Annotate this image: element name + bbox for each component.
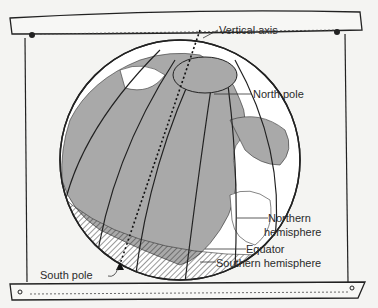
label-northern-hemisphere-2: hemisphere <box>264 226 321 238</box>
scroll-rivet-left-icon <box>29 32 35 38</box>
label-vertical-axis: Vertical axis <box>219 24 278 36</box>
label-south-pole: South pole <box>40 269 93 281</box>
scroll-rivet-right-icon <box>334 29 340 35</box>
label-equator: Equator <box>246 243 285 255</box>
scroll-top-bar <box>10 11 362 38</box>
scroll-bottom-bar <box>10 282 365 300</box>
label-north-pole: North pole <box>253 88 304 100</box>
label-southern-hemisphere: Southern hemisphere <box>216 257 321 269</box>
label-northern-hemisphere-1: Northern <box>268 212 311 224</box>
globe-illustration <box>0 0 378 308</box>
